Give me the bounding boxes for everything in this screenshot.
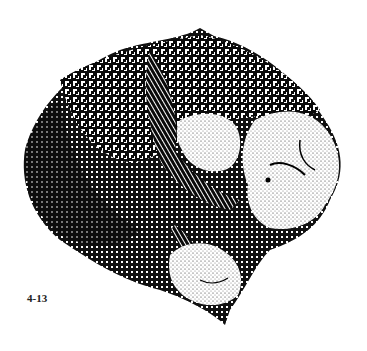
- lobe-right: [243, 112, 339, 230]
- figure-label: 4-13: [27, 292, 47, 304]
- stipple-illustration: [0, 0, 367, 351]
